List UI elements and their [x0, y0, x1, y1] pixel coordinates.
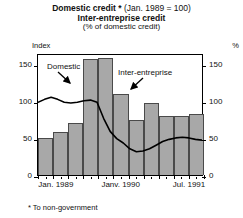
x-tick-minor [46, 177, 47, 179]
y-tick [202, 66, 206, 67]
y-tick [34, 103, 38, 104]
x-tick-minor [136, 177, 137, 179]
y-axis-tick-label-left: 0 [6, 171, 32, 180]
x-tick-major [83, 175, 84, 179]
x-tick-minor [61, 177, 62, 179]
y-axis-tick-label-right: 50 [209, 134, 235, 143]
x-tick-major [129, 175, 130, 179]
x-tick-minor [106, 177, 107, 179]
y-tick [34, 66, 38, 67]
x-tick-minor [196, 177, 197, 179]
title-main: Domestic credit * [52, 3, 121, 13]
y-axis-tick-label-right: 150 [209, 60, 235, 69]
y-axis-tick-label-left: 150 [6, 60, 32, 69]
x-tick-major [189, 175, 190, 179]
x-axis-tick-label: Janv. 1990 [101, 180, 140, 189]
x-tick-major [159, 175, 160, 179]
right-axis-unit: % [232, 41, 239, 50]
left-axis-unit: Index [32, 41, 50, 50]
x-tick-major [204, 175, 205, 179]
x-tick-major [144, 175, 145, 179]
x-tick-minor [76, 177, 77, 179]
x-tick-major [68, 175, 69, 179]
x-tick-major [98, 175, 99, 179]
x-tick-major [53, 175, 54, 179]
y-axis-tick-label-left: 100 [6, 97, 32, 106]
x-tick-minor [151, 177, 152, 179]
annotation-domestic: Domestic [47, 62, 80, 71]
x-tick-major [174, 175, 175, 179]
y-tick [202, 103, 206, 104]
x-tick-major [38, 175, 39, 179]
y-axis-tick-label-right: 0 [209, 171, 235, 180]
figure-domestic-credit: Domestic credit * (Jan. 1989 = 100) Inte… [0, 0, 243, 218]
x-tick-major [113, 175, 114, 179]
y-axis-tick-label-right: 100 [209, 97, 235, 106]
annotation-inter-entreprise: Inter-entreprise [118, 68, 172, 77]
x-tick-minor [181, 177, 182, 179]
title-line-3: (% of domestic credit) [0, 23, 243, 32]
x-tick-minor [121, 177, 122, 179]
chart-title-block: Domestic credit * (Jan. 1989 = 100) Inte… [0, 4, 243, 32]
x-axis-tick-label: Jul. 1991 [173, 180, 205, 189]
x-axis-tick-label: Jan. 1989 [38, 180, 73, 189]
x-tick-minor [91, 177, 92, 179]
y-tick [34, 140, 38, 141]
x-tick-minor [166, 177, 167, 179]
y-tick [202, 140, 206, 141]
footnote: * To non-government [28, 203, 98, 212]
y-axis-tick-label-left: 50 [6, 134, 32, 143]
title-basis: (Jan. 1989 = 100) [124, 3, 191, 13]
